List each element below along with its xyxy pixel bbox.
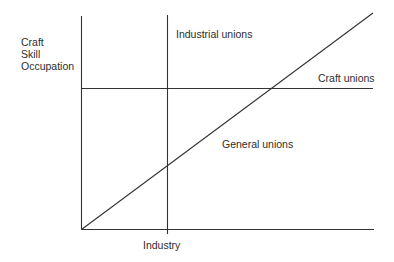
general-unions-label: General unions (222, 138, 293, 150)
general-diagonal-line (82, 13, 374, 230)
craft-unions-label: Craft unions (318, 72, 375, 84)
y-axis-label-line-1: Craft (21, 36, 44, 48)
y-axis-label-line-2: Skill (21, 48, 40, 60)
x-axis-label: Industry (143, 239, 181, 251)
y-axis-label-line-3: Occupation (21, 60, 74, 72)
industrial-unions-label: Industrial unions (176, 28, 252, 40)
union-types-diagram: Craft Skill Occupation Industrial unions… (0, 0, 394, 262)
